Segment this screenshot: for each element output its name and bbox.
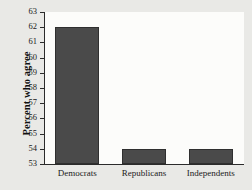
- y-tick-mark: [40, 149, 44, 150]
- y-tick-label: 55: [29, 128, 38, 139]
- y-tick-label: 62: [29, 21, 38, 32]
- y-tick: 62: [0, 27, 44, 28]
- y-tick-label: 53: [29, 158, 38, 169]
- x-axis-label: Independents: [177, 168, 244, 178]
- y-axis-line: [44, 12, 45, 165]
- bar: [55, 27, 99, 164]
- y-tick-mark: [40, 73, 44, 74]
- y-tick-label: 61: [29, 36, 38, 47]
- y-tick-mark: [40, 58, 44, 59]
- x-axis-label: Republicans: [111, 168, 178, 178]
- y-tick: 56: [0, 118, 44, 119]
- y-tick-mark: [40, 103, 44, 104]
- y-tick: 54: [0, 149, 44, 150]
- y-tick-label: 60: [29, 52, 38, 63]
- y-tick-mark: [40, 164, 44, 165]
- y-tick-mark: [40, 27, 44, 28]
- y-tick: 63: [0, 12, 44, 13]
- y-tick: 58: [0, 88, 44, 89]
- y-tick-mark: [40, 88, 44, 89]
- bar-chart: Percent who agree 5354555657585960616263…: [0, 0, 252, 190]
- y-tick: 53: [0, 164, 44, 165]
- y-tick-label: 63: [29, 6, 38, 17]
- y-tick-mark: [40, 12, 44, 13]
- y-tick: 55: [0, 134, 44, 135]
- x-axis-label: Democrats: [44, 168, 111, 178]
- y-tick: 60: [0, 58, 44, 59]
- y-tick-label: 57: [29, 97, 38, 108]
- y-tick-mark: [40, 134, 44, 135]
- bar: [122, 149, 166, 164]
- x-axis-line: [44, 164, 244, 165]
- y-tick-mark: [40, 118, 44, 119]
- y-tick-mark: [40, 42, 44, 43]
- y-tick: 59: [0, 73, 44, 74]
- y-tick: 61: [0, 42, 44, 43]
- y-tick-label: 59: [29, 67, 38, 78]
- y-tick: 57: [0, 103, 44, 104]
- y-tick-label: 54: [29, 143, 38, 154]
- y-tick-label: 58: [29, 82, 38, 93]
- bar: [189, 149, 233, 164]
- y-tick-label: 56: [29, 112, 38, 123]
